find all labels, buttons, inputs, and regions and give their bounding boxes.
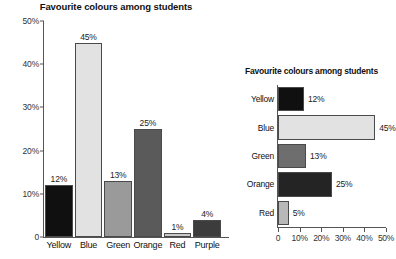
- vertical-chart-y-tick-label: 40%: [23, 59, 39, 69]
- vertical-chart-bar-group: 45%: [74, 21, 104, 237]
- vertical-chart-y-tick-label: 30%: [23, 102, 39, 112]
- horizontal-chart-bar-group: Yellow12%: [278, 85, 386, 113]
- horizontal-chart-bar-value-label: 45%: [379, 123, 395, 133]
- vertical-chart-bar-value-label: 45%: [74, 32, 104, 42]
- horizontal-bar-chart: Favourite colours among students Yellow1…: [232, 62, 391, 259]
- vertical-chart-bar-group: 4%: [192, 21, 222, 237]
- vertical-chart-bar-value-label: 13%: [103, 170, 133, 180]
- horizontal-chart-bar: [278, 144, 306, 168]
- horizontal-chart-x-tick-label: 50%: [378, 233, 394, 243]
- vertical-chart-bar-group: 25%: [133, 21, 163, 237]
- horizontal-chart-x-ticks: 010%20%30%40%50%: [278, 228, 386, 248]
- vertical-chart-bar: [134, 129, 162, 237]
- horizontal-chart-bar-value-label: 5%: [293, 208, 305, 218]
- vertical-chart-category-label: Green: [103, 240, 133, 250]
- vertical-bar-chart: Favourite colours among students 010%20%…: [0, 0, 232, 259]
- horizontal-chart-bar-group: Green13%: [278, 142, 386, 170]
- vertical-chart-bar: [45, 185, 73, 237]
- horizontal-chart-bar-value-label: 12%: [308, 94, 324, 104]
- horizontal-chart-bar-group: Red5%: [278, 199, 386, 227]
- horizontal-chart-bar: [278, 87, 304, 111]
- vertical-chart-bars: 12%45%13%25%1%4%: [44, 21, 222, 237]
- vertical-chart-category-label: Purple: [192, 240, 222, 250]
- horizontal-chart-x-tick-label: 10%: [292, 233, 308, 243]
- vertical-chart-bar-group: 13%: [103, 21, 133, 237]
- vertical-chart-y-tick-label: 10%: [23, 189, 39, 199]
- horizontal-chart-x-tick-label: 20%: [313, 233, 329, 243]
- vertical-chart-y-tick-label: 50%: [23, 16, 39, 26]
- vertical-chart-category-label: Orange: [133, 240, 163, 250]
- horizontal-chart-x-tick-label: 40%: [356, 233, 372, 243]
- vertical-chart-category-label: Red: [163, 240, 193, 250]
- horizontal-chart-x-tick-label: 30%: [335, 233, 351, 243]
- vertical-chart-bar-value-label: 12%: [44, 174, 74, 184]
- horizontal-chart-x-tick-mark: [364, 228, 365, 232]
- vertical-chart-title: Favourite colours among students: [0, 1, 232, 12]
- horizontal-chart-x-tick-label: 0: [276, 233, 280, 243]
- horizontal-chart-category-label: Blue: [258, 123, 274, 133]
- horizontal-chart-category-label: Yellow: [251, 94, 274, 104]
- vertical-chart-bar-value-label: 4%: [192, 209, 222, 219]
- vertical-chart-x-axis-line: [43, 237, 229, 238]
- horizontal-chart-category-label: Red: [259, 208, 274, 218]
- horizontal-chart-x-tick-mark: [343, 228, 344, 232]
- vertical-chart-bar: [104, 181, 132, 237]
- horizontal-chart-bar: [278, 201, 289, 225]
- vertical-chart-y-tick-label: 20%: [23, 146, 39, 156]
- vertical-chart-bar-group: 12%: [44, 21, 74, 237]
- horizontal-chart-category-label: Orange: [247, 179, 274, 189]
- vertical-chart-bar: [164, 233, 192, 237]
- horizontal-chart-bar-value-label: 25%: [336, 179, 352, 189]
- horizontal-chart-bar-group: Blue45%: [278, 113, 386, 141]
- vertical-chart-bar-value-label: 25%: [133, 118, 163, 128]
- vertical-chart-bar: [75, 43, 103, 237]
- vertical-chart-category-label: Yellow: [44, 240, 74, 250]
- horizontal-chart-category-label: Green: [251, 151, 274, 161]
- horizontal-chart-bar: [278, 115, 375, 139]
- vertical-chart-y-tick-label: 0: [34, 232, 39, 242]
- horizontal-chart-x-tick-mark: [300, 228, 301, 232]
- vertical-chart-bar-value-label: 1%: [163, 222, 193, 232]
- horizontal-chart-x-tick-mark: [278, 228, 279, 232]
- horizontal-chart-title: Favourite colours among students: [232, 66, 391, 76]
- horizontal-chart-bar-group: Orange25%: [278, 170, 386, 198]
- vertical-chart-category-label: Blue: [74, 240, 104, 250]
- vertical-chart-bar-group: 1%: [163, 21, 193, 237]
- horizontal-chart-bar-value-label: 13%: [310, 151, 326, 161]
- horizontal-chart-x-tick-mark: [321, 228, 322, 232]
- horizontal-chart-x-tick-mark: [386, 228, 387, 232]
- horizontal-chart-bars: Yellow12%Blue45%Green13%Orange25%Red5%: [278, 85, 386, 227]
- vertical-chart-bar: [193, 220, 221, 237]
- horizontal-chart-bar: [278, 172, 332, 196]
